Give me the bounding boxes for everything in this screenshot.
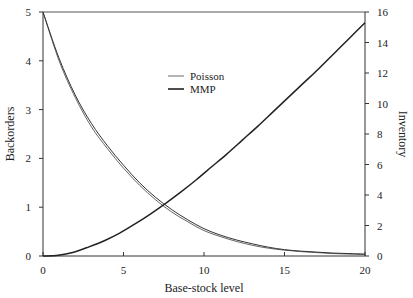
- y-tick-label: 3: [26, 104, 32, 116]
- y2-tick-label: 12: [377, 67, 388, 79]
- poisson-backorders-line: [43, 12, 365, 255]
- mmp-backorders-line: [43, 12, 365, 254]
- y2-tick-label: 16: [377, 6, 389, 18]
- legend-label-poisson: Poisson: [190, 70, 225, 82]
- y2-axis-label: Inventory: [396, 111, 410, 158]
- y2-axis-ticks: 0246810121416: [365, 6, 389, 262]
- legend: Poisson MMP: [168, 70, 225, 95]
- y-axis-ticks: 012345: [26, 6, 44, 262]
- y-tick-label: 0: [26, 250, 32, 262]
- y2-tick-label: 2: [377, 220, 383, 232]
- y-axis-label: Backorders: [3, 106, 17, 161]
- y-tick-label: 2: [26, 152, 32, 164]
- series-lines: [43, 12, 365, 256]
- y2-tick-label: 8: [377, 128, 383, 140]
- x-axis-label: Base-stock level: [165, 281, 245, 295]
- y2-tick-label: 0: [377, 250, 383, 262]
- y2-tick-label: 4: [377, 189, 383, 201]
- legend-label-mmp: MMP: [190, 83, 216, 95]
- y-tick-label: 5: [26, 6, 32, 18]
- x-tick-label: 0: [40, 264, 46, 276]
- x-tick-label: 20: [360, 264, 372, 276]
- x-tick-label: 10: [199, 264, 211, 276]
- y-tick-label: 4: [26, 55, 32, 67]
- y-tick-label: 1: [26, 201, 32, 213]
- y2-tick-label: 10: [377, 98, 389, 110]
- y2-tick-label: 14: [377, 37, 389, 49]
- x-tick-label: 5: [121, 264, 127, 276]
- y2-tick-label: 6: [377, 159, 383, 171]
- x-tick-label: 15: [279, 264, 291, 276]
- inventory-line: [43, 23, 365, 256]
- chart: 05101520 012345 0246810121416 Poisson MM…: [0, 0, 413, 298]
